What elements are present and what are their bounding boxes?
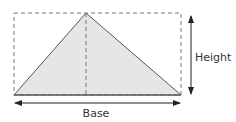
base-label: Base bbox=[83, 107, 110, 120]
triangle bbox=[14, 13, 181, 95]
triangle-diagram: Height Base bbox=[0, 0, 236, 122]
height-label: Height bbox=[195, 51, 232, 64]
